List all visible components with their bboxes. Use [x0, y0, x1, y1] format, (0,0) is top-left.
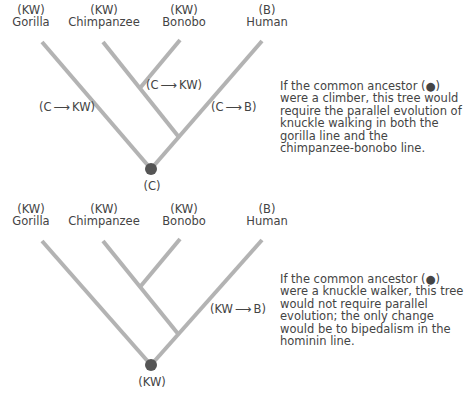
- taxon-name: Human: [246, 16, 287, 28]
- transition-to: B): [254, 302, 266, 316]
- transition-to: KW): [179, 78, 202, 92]
- taxon-name: Gorilla: [12, 215, 49, 227]
- transition-from: (C: [39, 100, 52, 114]
- tree-panel-climber-ancestor: (KW) Gorilla (KW) Chimpanzee (KW) Bonobo…: [0, 0, 468, 196]
- branch-bonobo: [140, 239, 180, 287]
- taxon-human: (B) Human: [246, 203, 287, 227]
- arrow-right-icon: ⟶: [161, 78, 178, 92]
- transition-chimpanzee-bonobo: (C⟶KW): [146, 78, 202, 92]
- tree-panel-knuckle-walker-ancestor: (KW) Gorilla (KW) Chimpanzee (KW) Bonobo…: [0, 196, 468, 392]
- root-state-label: (KW): [138, 375, 165, 389]
- tree-caption: If the common ancestor (●) were a knuckl…: [280, 273, 465, 347]
- transition-human: (KW⟶B): [210, 302, 266, 316]
- transition-to: KW): [72, 100, 95, 114]
- taxon-gorilla: (KW) Gorilla: [12, 203, 49, 227]
- arrow-right-icon: ⟶: [235, 302, 252, 316]
- taxon-chimpanzee: (KW) Chimpanzee: [68, 4, 140, 28]
- transition-from: (C: [211, 100, 224, 114]
- taxon-name: Gorilla: [12, 16, 49, 28]
- taxon-bonobo: (KW) Bonobo: [162, 203, 206, 227]
- taxon-gorilla: (KW) Gorilla: [12, 4, 49, 28]
- common-ancestor-node: [145, 359, 157, 371]
- transition-from: (KW: [210, 302, 233, 316]
- transition-to: B): [244, 100, 256, 114]
- taxon-human: (B) Human: [246, 4, 287, 28]
- branch-gorilla: [42, 241, 151, 365]
- taxon-name: Chimpanzee: [68, 215, 140, 227]
- arrow-right-icon: ⟶: [54, 100, 71, 114]
- taxon-name: Chimpanzee: [68, 16, 140, 28]
- taxon-chimpanzee: (KW) Chimpanzee: [68, 203, 140, 227]
- transition-gorilla: (C⟶KW): [39, 100, 95, 114]
- transition-from: (C: [146, 78, 159, 92]
- taxon-name: Bonobo: [162, 16, 206, 28]
- transition-human: (C⟶B): [211, 100, 256, 114]
- taxon-name: Bonobo: [162, 215, 206, 227]
- tree-caption: If the common ancestor (●) were a climbe…: [280, 80, 465, 154]
- common-ancestor-node: [145, 163, 157, 175]
- root-state-label: (C): [143, 179, 160, 193]
- taxon-bonobo: (KW) Bonobo: [162, 4, 206, 28]
- arrow-right-icon: ⟶: [226, 100, 243, 114]
- taxon-name: Human: [246, 215, 287, 227]
